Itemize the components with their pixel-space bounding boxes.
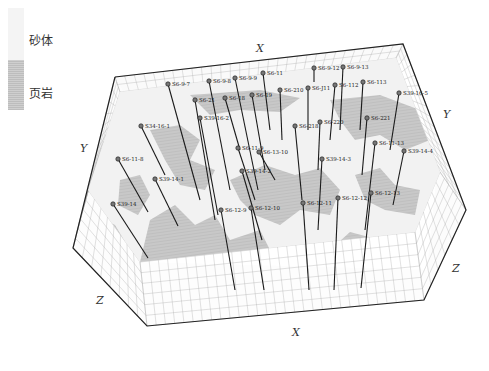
wellhead-icon [207, 79, 211, 83]
well-label: S39-14-4 [408, 148, 433, 154]
wellhead-icon [369, 191, 373, 195]
wellhead-icon [278, 88, 282, 92]
wellhead-icon [111, 202, 115, 206]
wellhead-icon [219, 208, 223, 212]
well-label: S6-221 [371, 115, 391, 121]
wellhead-icon [257, 150, 261, 154]
axis-label-y-right: Y [443, 108, 452, 121]
well-label: S6-12-11 [307, 200, 332, 206]
wellhead-icon [301, 201, 305, 205]
well-label: S39-14 [117, 201, 137, 207]
well-label: S6-9-8 [213, 78, 231, 84]
wellhead-icon [153, 177, 157, 181]
wellhead-icon [139, 124, 143, 128]
wellhead-icon [397, 91, 401, 95]
wellhead-icon [250, 93, 254, 97]
axis-label-z-right: Z [451, 262, 460, 275]
wellhead-icon [341, 65, 345, 69]
well-label: S6-11-13 [379, 140, 404, 146]
well-label: S6-11-8 [122, 156, 144, 162]
wellhead-icon [336, 196, 340, 200]
well-label: S6-21 [199, 97, 215, 103]
wellhead-icon [365, 116, 369, 120]
well-label: S6-12-12 [342, 195, 367, 201]
wellhead-icon [361, 80, 365, 84]
wellhead-icon [198, 116, 202, 120]
well-label: S6-12-13 [375, 190, 400, 196]
well-label: S39-14-1 [159, 176, 184, 182]
well-label: S6-J11 [312, 85, 330, 92]
well-label: S6-11 [267, 70, 283, 76]
wellhead-icon [223, 96, 227, 100]
wellhead-icon [116, 157, 120, 161]
well-label: S39-16-2 [204, 115, 229, 121]
well-label: S6-113 [367, 79, 387, 85]
well-label: S6-12-9 [225, 207, 247, 213]
well-label: S6-9-9 [239, 75, 257, 81]
axis-label-x-top: X [255, 42, 265, 55]
well-label: S6-210 [284, 87, 304, 93]
wellhead-icon [373, 141, 377, 145]
wellhead-icon [306, 86, 310, 90]
well-label: S6-11-9 [242, 145, 264, 151]
well-label: S6-112 [339, 82, 359, 88]
wellhead-icon [233, 76, 237, 80]
well-label: S39-16-5 [403, 90, 428, 96]
wellhead-icon [249, 206, 253, 210]
well-label: S6-18 [229, 95, 246, 101]
wellhead-icon [193, 98, 197, 102]
3d-geological-model: S6-9-7S6-9-8S6-9-9S6-11S6-9-12S6-9-13S6-… [0, 0, 489, 371]
well-label: S6-218 [299, 123, 319, 129]
axis-label-y-left: Y [80, 142, 89, 155]
wellhead-icon [261, 71, 265, 75]
wellhead-icon [166, 82, 170, 86]
well-label: S6-9-13 [347, 64, 369, 70]
axis-label-x-bottom: X [291, 326, 301, 339]
wellhead-icon [402, 149, 406, 153]
well-label: S39-14-2 [246, 168, 271, 174]
well-label: S6-9-7 [172, 81, 190, 87]
wellhead-icon [240, 169, 244, 173]
wellhead-icon [318, 120, 322, 124]
wellhead-icon [320, 157, 324, 161]
well-label: S39-14-3 [326, 156, 351, 162]
well-label: S6-12-10 [255, 205, 280, 211]
well-label: S6-19 [256, 92, 273, 98]
wellhead-icon [236, 146, 240, 150]
wellhead-icon [293, 124, 297, 128]
well-label: S6-9-12 [318, 65, 339, 71]
well-label: S6-13-10 [263, 149, 288, 155]
wellhead-icon [312, 66, 316, 70]
well-label: S34-16-1 [145, 123, 170, 129]
wellhead-icon [333, 83, 337, 87]
axis-label-z-left: Z [95, 294, 104, 307]
well-label: S6-220 [324, 119, 344, 125]
